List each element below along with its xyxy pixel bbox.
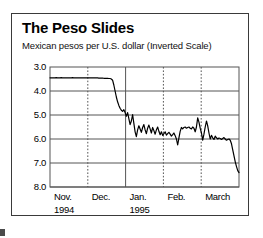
y-axis-tick-label: 6.0	[22, 133, 46, 144]
x-axis-tick-label: Jan.	[130, 191, 147, 202]
peso-exchange-rate-line	[50, 78, 239, 173]
y-axis-tick-label: 5.0	[22, 109, 46, 120]
y-axis-tick-label: 4.0	[22, 85, 46, 96]
chart-figure: The Peso Slides Mexican pesos per U.S. d…	[11, 13, 249, 216]
plot-area: 3.04.05.06.07.08.0 Nov.1994Dec.Jan.1995F…	[12, 14, 250, 217]
x-axis-tick-year: 1994	[54, 204, 74, 215]
y-axis-tick-label: 8.0	[22, 181, 46, 192]
x-axis-tick-label: Feb.	[167, 191, 185, 202]
y-axis-tick-label: 3.0	[22, 61, 46, 72]
x-axis-tick-label: Nov.	[54, 191, 72, 202]
y-axis-tick-label: 7.0	[22, 157, 46, 168]
x-axis-tick-year: 1995	[130, 204, 150, 215]
line-chart-svg	[12, 14, 250, 217]
corner-artifact	[0, 229, 5, 236]
x-axis-tick-label: March	[205, 191, 230, 202]
x-axis-tick-label: Dec.	[92, 191, 110, 202]
